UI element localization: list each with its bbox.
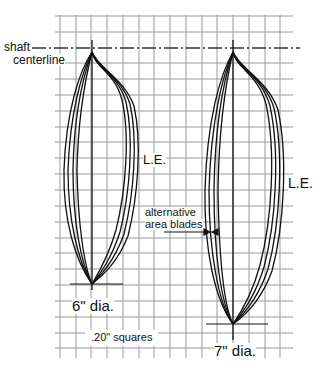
blade-diagram: shaft centerline L.E. L.E. alternative a… xyxy=(0,0,327,378)
dia6-label: 6" dia. xyxy=(72,298,114,314)
dia7-label: 7" dia. xyxy=(214,343,256,359)
le-right-label: L.E. xyxy=(288,176,313,191)
shaft-label-line2: centerline xyxy=(13,54,65,67)
le-left-label: L.E. xyxy=(143,153,166,167)
alternative-label: alternative area blades xyxy=(145,207,203,230)
squares-label: .20" squares xyxy=(85,330,158,346)
shaft-label: shaft centerline xyxy=(4,41,65,66)
alternative-line2: area blades xyxy=(145,219,203,231)
shaft-label-line1: shaft xyxy=(4,41,30,54)
alternative-line1: alternative xyxy=(145,207,196,219)
